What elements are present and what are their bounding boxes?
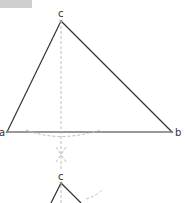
construction-lines — [26, 21, 102, 203]
sub-vertex-label-c: c — [58, 171, 64, 182]
edge-cb — [61, 21, 172, 132]
vertex-b-point — [171, 131, 174, 134]
main-triangle — [6, 20, 174, 134]
vertex-label-b: b — [175, 127, 181, 138]
sub-triangle — [51, 182, 81, 203]
sub-edge-left — [51, 183, 61, 203]
edge-ac — [7, 21, 61, 132]
vertex-a-point — [6, 131, 9, 134]
vertex-label-c: c — [58, 8, 64, 19]
vertex-label-a: a — [0, 127, 5, 138]
sub-edge-right — [61, 183, 81, 203]
sub-construction-arc — [86, 190, 102, 199]
triangle-construction-diagram: c a b c — [0, 0, 185, 203]
sub-vertex-c-point — [60, 182, 63, 185]
